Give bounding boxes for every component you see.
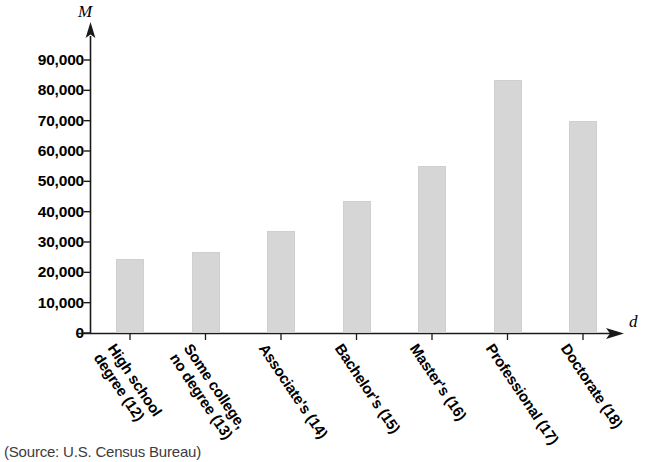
source-note: (Source: U.S. Census Bureau) (4, 443, 201, 460)
bar (569, 121, 597, 333)
plot-area (0, 0, 654, 462)
bar (116, 259, 144, 333)
bar (267, 231, 295, 333)
bar (192, 252, 220, 333)
bar-chart-figure: M d 010,00020,00030,00040,00050,00060,00… (0, 0, 654, 462)
bar (494, 80, 522, 333)
bar (418, 166, 446, 333)
bar (343, 201, 371, 333)
